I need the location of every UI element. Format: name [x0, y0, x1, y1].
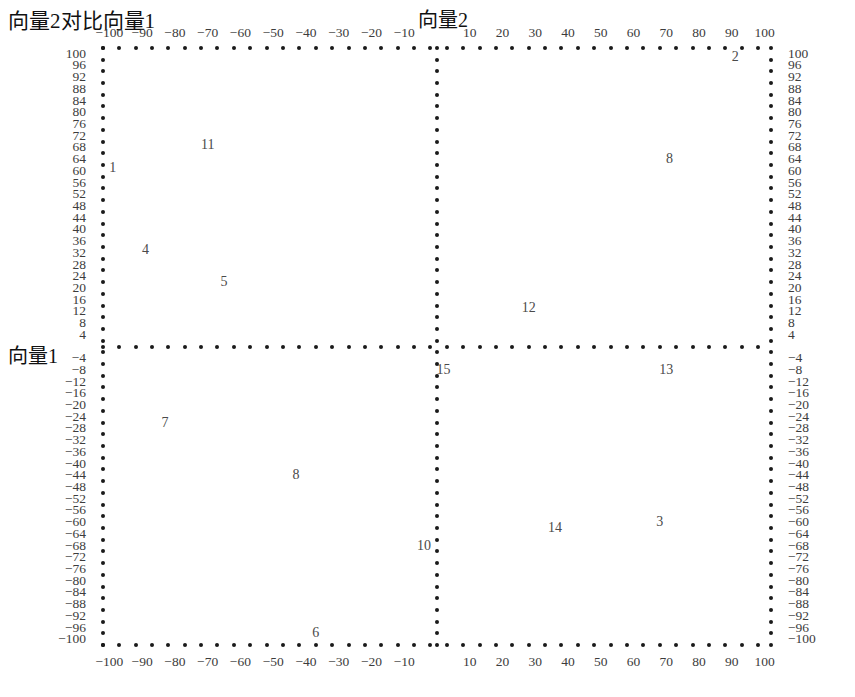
data-point-label: 6	[312, 626, 319, 640]
left-axis-dot	[101, 58, 105, 62]
bottom-axis-dot	[707, 643, 711, 647]
left-axis-dot	[101, 549, 105, 553]
top-axis-dot	[314, 46, 318, 50]
left-axis-dot	[101, 397, 105, 401]
right-axis-dot	[769, 257, 773, 261]
data-point-label: 11	[201, 138, 214, 152]
data-point-label: 7	[162, 416, 169, 430]
center-x-axis-dot	[183, 345, 187, 349]
center-x-axis-dot	[199, 345, 203, 349]
data-point-label: 10	[417, 539, 431, 553]
bottom-axis-dot	[117, 643, 121, 647]
center-x-axis-dot	[215, 345, 219, 349]
right-axis-dot	[769, 585, 773, 589]
center-y-axis-dot	[435, 292, 439, 296]
top-axis-dot	[740, 46, 744, 50]
center-x-axis-dot	[412, 345, 416, 349]
center-y-axis-dot	[435, 549, 439, 553]
top-axis-dot	[641, 46, 645, 50]
center-x-axis-dot	[232, 345, 236, 349]
bottom-axis-dot	[347, 643, 351, 647]
bottom-axis-dot	[215, 643, 219, 647]
left-axis-dot	[101, 175, 105, 179]
center-x-axis-dot	[461, 345, 465, 349]
center-x-axis-dot	[510, 345, 514, 349]
center-x-axis-dot	[117, 345, 121, 349]
left-axis-dot	[101, 280, 105, 284]
bottom-axis-dot	[461, 643, 465, 647]
left-axis-dot	[101, 81, 105, 85]
bottom-axis-dot	[641, 643, 645, 647]
left-axis-dot	[101, 514, 105, 518]
bottom-axis-dot	[625, 643, 629, 647]
bottom-axis-dot	[756, 643, 760, 647]
left-axis-title: 向量1	[8, 340, 58, 369]
center-x-axis-dot	[428, 345, 432, 349]
center-x-axis-dot	[281, 345, 285, 349]
left-axis-dot	[101, 456, 105, 460]
center-y-axis-dot	[435, 140, 439, 144]
center-y-axis-dot	[435, 596, 439, 600]
right-axis-dot	[769, 268, 773, 272]
center-x-axis-dot	[576, 345, 580, 349]
top-axis-dot	[510, 46, 514, 50]
left-axis-dot	[101, 467, 105, 471]
x-tick-label-bottom: −40	[295, 655, 316, 669]
bottom-axis-dot	[232, 643, 236, 647]
center-y-axis-dot	[435, 175, 439, 179]
right-axis-dot	[769, 69, 773, 73]
top-axis-dot	[428, 46, 432, 50]
top-axis-dot	[478, 46, 482, 50]
bottom-axis-dot	[314, 643, 318, 647]
bottom-axis-dot	[494, 643, 498, 647]
bottom-axis-dot	[199, 643, 203, 647]
right-axis-dot	[769, 491, 773, 495]
bottom-axis-dot	[674, 643, 678, 647]
left-axis-dot	[101, 233, 105, 237]
center-y-axis-dot	[435, 456, 439, 460]
x-tick-label-bottom: 100	[754, 655, 774, 669]
x-tick-label-top: −60	[230, 26, 251, 40]
bottom-axis-dot	[428, 643, 432, 647]
x-tick-label-top: −50	[263, 26, 284, 40]
right-axis-dot	[769, 374, 773, 378]
center-y-axis-dot	[435, 444, 439, 448]
center-y-axis-dot	[435, 268, 439, 272]
right-axis-dot	[769, 93, 773, 97]
x-tick-label-bottom: 30	[529, 655, 543, 669]
center-y-axis-dot	[435, 421, 439, 425]
y-tick-label-right: 4	[788, 328, 795, 342]
right-axis-dot	[769, 514, 773, 518]
right-axis-dot	[769, 620, 773, 624]
x-tick-label-top: −10	[394, 26, 415, 40]
bottom-axis-dot	[559, 643, 563, 647]
x-tick-label-top: 80	[692, 26, 706, 40]
right-axis-dot	[769, 245, 773, 249]
left-axis-dot	[101, 479, 105, 483]
center-x-axis-dot	[494, 345, 498, 349]
bottom-axis-dot	[658, 643, 662, 647]
center-y-axis-dot	[435, 631, 439, 635]
y-tick-label-left: −100	[58, 632, 86, 646]
x-tick-label-top: 30	[529, 26, 543, 40]
center-x-axis-dot	[543, 345, 547, 349]
bottom-axis-dot	[478, 643, 482, 647]
left-axis-dot	[101, 69, 105, 73]
right-axis-dot	[769, 362, 773, 366]
center-y-axis-dot	[435, 116, 439, 120]
center-x-axis-dot	[527, 345, 531, 349]
right-axis-dot	[769, 186, 773, 190]
x-tick-label-bottom: −70	[197, 655, 218, 669]
left-axis-dot	[101, 198, 105, 202]
right-axis-dot	[769, 116, 773, 120]
top-axis-dot	[183, 46, 187, 50]
left-axis-dot	[101, 210, 105, 214]
center-y-axis-dot	[435, 104, 439, 108]
x-tick-label-bottom: −100	[95, 655, 123, 669]
center-x-axis-dot	[592, 345, 596, 349]
center-x-axis-dot	[134, 345, 138, 349]
left-axis-dot	[101, 374, 105, 378]
top-axis-dot	[723, 46, 727, 50]
right-axis-dot	[769, 280, 773, 284]
left-axis-dot	[101, 350, 105, 354]
